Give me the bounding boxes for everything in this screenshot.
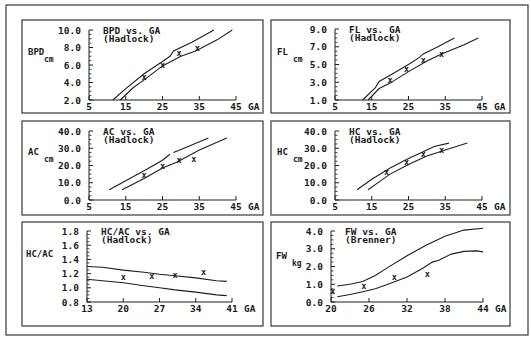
measurement-marker: x [195,43,200,53]
x-tick-label: 44 [477,303,489,314]
reference-curve-lower [122,138,227,190]
y-tick-label: 0.0 [310,195,327,206]
y-tick-label: 1.6 [62,240,79,251]
x-tick-label: 45 [230,101,242,112]
y-tick-label: 2.0 [306,261,323,272]
y-tick-label: 3.0 [310,77,327,88]
x-tick-label: 15 [366,201,378,212]
y-tick-label: 4.0 [64,77,81,88]
reference-curve-upper-b [174,138,209,153]
x-tick-label: 15 [120,201,132,212]
y-tick-label: 4.0 [306,226,323,237]
y-tick-label: 30.0 [304,143,327,154]
outer-frame [6,5,528,335]
y-tick-label: 1.8 [62,226,79,237]
measurement-marker: x [191,154,196,164]
x-tick-label: 5 [332,101,338,112]
y-axis-unit: kg [292,259,302,268]
y-tick-label: 1.2 [62,268,79,279]
x-tick-label: 38 [439,303,451,314]
x-tick-label: 32 [401,303,412,314]
measurement-marker: x [404,157,409,167]
measurement-marker: x [160,161,165,171]
reference-curve-upper [357,143,449,190]
y-axis-label: BPD [28,47,45,57]
chart-subtitle: (Brenner) [345,234,396,245]
y-tick-label: 5.0 [310,59,327,70]
measurement-marker: x [388,75,393,85]
x-axis-label: GA [248,201,260,212]
measurement-marker: x [149,271,154,281]
measurement-marker: x [439,49,444,59]
x-tick-label: 35 [194,201,206,212]
measurement-marker: x [176,155,181,165]
x-axis-label: GA [248,101,260,112]
x-tick-label: 13 [81,303,93,314]
measurement-marker: x [425,269,430,279]
measurement-marker: x [421,55,426,65]
reference-curve-lower [337,251,483,297]
x-tick-label: 41 [226,303,238,314]
y-axis-label: FL [277,47,288,57]
y-tick-label: 7.0 [310,41,327,52]
y-axis-unit: cm [293,55,303,64]
y-tick-label: 2.0 [64,95,81,106]
x-tick-label: 35 [440,101,452,112]
chart-subtitle: (Hadlock) [349,134,400,145]
x-tick-label: 5 [86,101,92,112]
x-tick-label: 35 [194,101,206,112]
measurement-marker: x [330,286,335,296]
fl-chart-panel: 1.03.05.07.09.0515253545GAFLcmFL vs. GA(… [271,20,510,113]
measurement-marker: x [142,72,147,82]
x-tick-label: 26 [363,303,375,314]
y-tick-label: 3.0 [306,243,323,254]
y-tick-label: 1.0 [306,279,323,290]
y-tick-label: 10.0 [58,25,81,36]
x-tick-label: 45 [230,201,242,212]
x-tick-label: 25 [403,201,415,212]
measurement-marker: x [121,272,126,282]
y-tick-label: 40.0 [304,126,327,137]
x-tick-label: 15 [120,101,132,112]
x-axis-label: GA [494,201,506,212]
y-axis-label: HC/AC [26,249,53,259]
x-axis-label: GA [494,101,506,112]
chart-subtitle: (Hadlock) [103,134,154,145]
measurement-marker: x [172,270,177,280]
y-tick-label: 1.4 [62,254,79,265]
y-tick-label: 8.0 [64,42,81,53]
x-tick-label: 25 [157,201,169,212]
y-tick-label: 1.0 [62,282,79,293]
y-axis-unit: cm [293,155,303,164]
y-tick-label: 40.0 [58,126,81,137]
chart-subtitle: (Hadlock) [103,33,154,44]
hc-chart-panel: 0.010.020.030.040.0515253545GAHCcmHC vs.… [271,121,510,215]
measurement-marker: x [384,167,389,177]
y-tick-label: 6.0 [64,60,81,71]
fw-chart-panel: 0.01.02.03.04.02026323844GAFWkgFW vs. GA… [271,222,510,326]
x-tick-label: 5 [86,201,92,212]
reference-curve-lower [368,38,478,100]
y-tick-label: 0.8 [62,297,79,308]
x-tick-label: 25 [403,101,415,112]
x-axis-label: GA [244,303,256,314]
x-tick-label: 15 [366,101,378,112]
measurement-marker: x [160,60,165,70]
y-axis-label: HC [277,147,288,157]
x-tick-label: 34 [190,303,202,314]
y-tick-label: 0.0 [306,297,323,308]
y-tick-label: 30.0 [58,143,81,154]
measurement-marker: x [176,48,181,58]
y-tick-label: 20.0 [58,160,81,171]
measurement-marker: x [142,170,147,180]
y-tick-label: 1.0 [310,95,327,106]
y-tick-label: 9.0 [310,24,327,35]
reference-curve-lower [368,143,467,190]
hcac-chart-panel: 0.81.01.21.41.61.81320273441GAHC/ACHC/AC… [22,222,263,326]
reference-curve-lower [87,279,227,295]
y-axis-unit: cm [44,155,54,164]
chart-subtitle: (Hadlock) [349,32,400,43]
x-tick-label: 45 [476,201,488,212]
y-axis-label: AC [28,147,39,157]
chart-subtitle: (Hadlock) [101,234,152,245]
